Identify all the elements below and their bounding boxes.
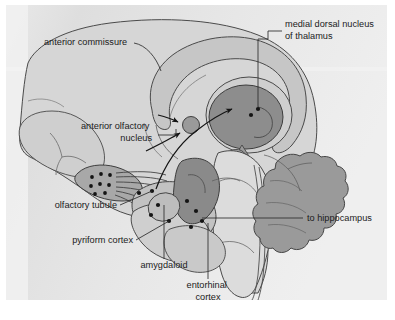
neuron-dot-amygdaloid-2 (194, 209, 198, 213)
label-aon-line-2: nucleus (120, 133, 152, 143)
neuron-dot-entorhinal-2 (189, 225, 193, 229)
brain-olfactory-pathway-diagram: anterior commissure medial dorsal nucleu… (6, 5, 387, 300)
label-olfactory-tubule: olfactory tubule (55, 200, 117, 210)
glomerulus-dot-7 (93, 192, 97, 196)
label-md-line-2: of thalamus (285, 31, 333, 41)
neuron-dot-entorhinal-1 (200, 219, 204, 223)
neuron-dot-tubule-2 (149, 213, 153, 217)
label-aon-line-1: anterior olfactory (81, 121, 150, 131)
label-to-hippocampus: to hippocampus (307, 213, 372, 223)
glomerulus-dot-2 (99, 172, 103, 176)
label-pyriform-cortex: pyriform cortex (72, 235, 133, 245)
label-amygdaloid: amygdaloid (141, 260, 188, 270)
md-nucleus-neuron-dot-2 (249, 113, 253, 117)
glomerulus-dot-3 (108, 173, 112, 177)
md-nucleus-neuron-dot-1 (256, 107, 260, 111)
neuron-dot-aon (137, 191, 141, 195)
neuron-dot-amygdaloid-1 (185, 199, 189, 203)
glomerulus-dot-6 (107, 183, 111, 187)
glomerulus-dot-4 (89, 184, 93, 188)
label-md-line-1: medial dorsal nucleus (285, 19, 374, 29)
neuron-dot-tubule-1 (156, 203, 160, 207)
glomerulus-dot-8 (103, 191, 107, 195)
glomerulus-dot-5 (98, 182, 102, 186)
figure-page: anterior commissure medial dorsal nucleu… (0, 0, 395, 320)
label-anterior-commissure: anterior commissure (44, 37, 127, 47)
glomerulus-dot-1 (90, 175, 94, 179)
label-entorhinal-line-1: entorhinal (187, 280, 227, 290)
thalamus (209, 85, 283, 149)
label-entorhinal-line-2: cortex (195, 292, 220, 301)
anatomical-diagram-panel: anterior commissure medial dorsal nucleu… (6, 5, 387, 300)
